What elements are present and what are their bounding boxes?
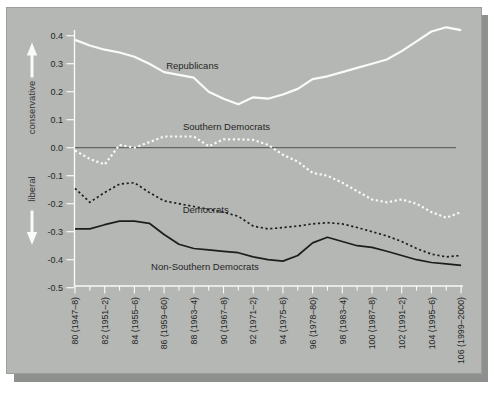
x-tick-label: 96 (1978–80)	[308, 297, 318, 349]
x-tick-label: 92 (1971–2)	[248, 297, 258, 345]
y-tick-label: 0.0	[50, 143, 63, 153]
x-tick-label: 84 (1955–6)	[130, 297, 140, 345]
y-tick-label: 0.4	[50, 31, 63, 41]
y-tick-label: 0.2	[50, 87, 63, 97]
figure-page: conservative liberal 0.40.30.20.10.0-0.1…	[0, 0, 494, 395]
series-line-democrats	[75, 183, 461, 257]
series-label-republicans: Republicans	[166, 60, 219, 71]
x-tick-label: 100 (1987–8)	[367, 297, 377, 349]
x-tick-label: 98 (1983–4)	[338, 297, 348, 345]
x-tick-label: 88 (1963–4)	[189, 297, 199, 345]
liberal-axis-label: liberal	[26, 176, 37, 201]
conservative-axis-label: conservative	[26, 81, 37, 134]
y-tick-label: 0.3	[50, 59, 63, 69]
y-tick-label: -0.3	[47, 227, 63, 237]
x-tick-label: 106 (1999–2000)	[456, 297, 466, 364]
series-label-southern-democrats: Southern Democrats	[183, 121, 270, 132]
polarization-line-chart: conservative liberal 0.40.30.20.10.0-0.1…	[0, 0, 494, 395]
down-arrow-icon	[27, 211, 37, 246]
series-label-non-southern-democrats: Non-Southern Democrats	[151, 261, 259, 272]
series-label-democrats: Democrats	[183, 204, 229, 215]
x-tick-label: 90 (1967–8)	[219, 297, 229, 345]
series-line-republicans	[75, 27, 461, 104]
y-tick-label: -0.1	[47, 171, 63, 181]
x-tick-label: 102 (1991–2)	[397, 297, 407, 349]
y-tick-label: -0.4	[47, 255, 63, 265]
x-tick-label: 80 (1947–8)	[70, 297, 80, 345]
x-tick-label: 86 (1959–60)	[159, 297, 169, 349]
y-tick-label: -0.2	[47, 199, 63, 209]
series-line-southern-democrats	[75, 137, 461, 218]
series-line-non-southern-democrats	[75, 221, 461, 265]
x-tick-label: 104 (1995–6)	[427, 297, 437, 349]
x-tick-label: 82 (1951–2)	[100, 297, 110, 345]
y-tick-label: 0.1	[50, 115, 63, 125]
y-tick-label: -0.5	[47, 283, 63, 293]
up-arrow-icon	[27, 43, 37, 78]
x-tick-label: 94 (1975–6)	[278, 297, 288, 345]
